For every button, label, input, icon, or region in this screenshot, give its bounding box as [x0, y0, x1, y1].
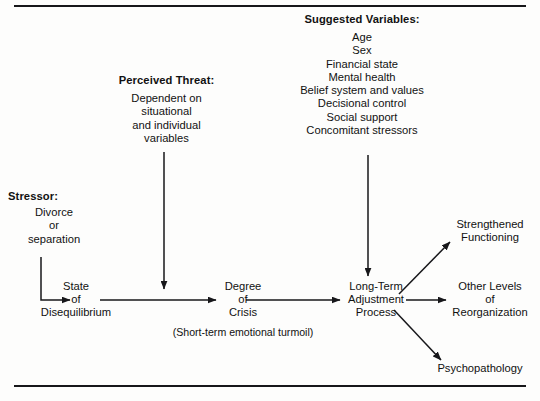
- strengthened-line: Strengthened: [448, 218, 532, 231]
- other-levels-line: Other Levels: [446, 280, 534, 293]
- long-term-line: Adjustment: [338, 293, 414, 306]
- degree-line: Degree: [213, 280, 273, 293]
- suggested-variable-item: Concomitant stressors: [262, 124, 462, 137]
- perceived-threat-line: Dependent on: [104, 92, 229, 105]
- node-long-term-adjustment-process: Long-Term Adjustment Process: [338, 280, 414, 320]
- long-term-line: Process: [338, 306, 414, 319]
- suggested-variable-item: Mental health: [262, 71, 462, 84]
- other-levels-line: of: [446, 293, 534, 306]
- node-psychopathology: Psychopathology: [432, 362, 528, 375]
- stressor-line: separation: [8, 233, 100, 246]
- state-line: Disequilibrium: [30, 306, 122, 319]
- stressor-line: Divorce: [8, 206, 100, 219]
- node-perceived-threat: Perceived Threat: Dependent on situation…: [104, 74, 229, 145]
- suggested-variable-item: Social support: [262, 111, 462, 124]
- suggested-variable-item: Sex: [262, 44, 462, 57]
- degree-line: Crisis: [213, 306, 273, 319]
- degree-line: of: [213, 293, 273, 306]
- stressor-heading: Stressor:: [8, 190, 100, 203]
- node-stressor: Stressor: Divorce or separation: [8, 190, 100, 246]
- bottom-rule: [14, 385, 526, 387]
- short-term-turmoil-note: (Short-term emotional turmoil): [150, 326, 336, 339]
- suggested-variable-item: Financial state: [262, 58, 462, 71]
- other-levels-line: Reorganization: [446, 306, 534, 319]
- perceived-threat-heading: Perceived Threat:: [104, 74, 229, 87]
- perceived-threat-line: variables: [104, 132, 229, 145]
- stressor-line: or: [8, 219, 100, 232]
- suggested-variable-item: Belief system and values: [262, 84, 462, 97]
- perceived-threat-line: situational: [104, 105, 229, 118]
- node-state-of-disequilibrium: State of Disequilibrium: [30, 280, 122, 320]
- state-line: State: [30, 280, 122, 293]
- perceived-threat-line: and individual: [104, 119, 229, 132]
- top-rule: [14, 5, 526, 7]
- long-term-line: Long-Term: [338, 280, 414, 293]
- node-other-levels-of-reorganization: Other Levels of Reorganization: [446, 280, 534, 320]
- suggested-variable-item: Decisional control: [262, 97, 462, 110]
- figure-canvas: Suggested Variables: Age Sex Financial s…: [0, 0, 540, 401]
- node-strengthened-functioning: Strengthened Functioning: [448, 218, 532, 244]
- suggested-variable-item: Age: [262, 31, 462, 44]
- suggested-variables-heading: Suggested Variables:: [262, 13, 462, 26]
- strengthened-line: Functioning: [448, 231, 532, 244]
- state-line: of: [30, 293, 122, 306]
- short-term-note-text: (Short-term emotional turmoil): [150, 326, 336, 339]
- node-suggested-variables: Suggested Variables: Age Sex Financial s…: [262, 13, 462, 137]
- psychopathology-line: Psychopathology: [432, 362, 528, 375]
- node-degree-of-crisis: Degree of Crisis: [213, 280, 273, 320]
